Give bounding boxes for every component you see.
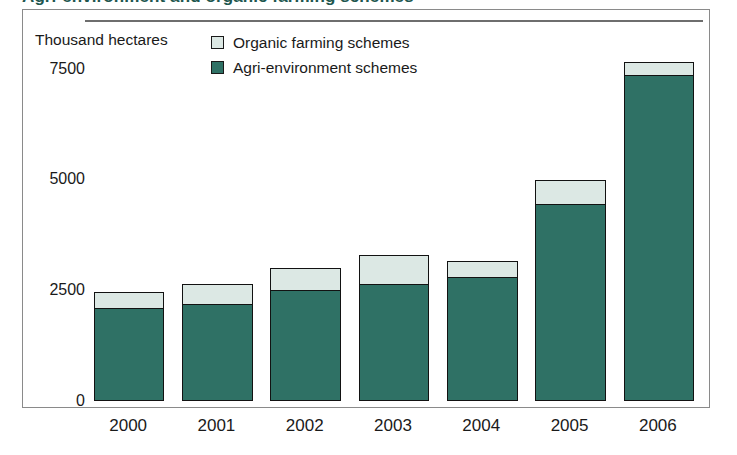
chart-title-strip: Agri-environment and organic farming sch… [0, 0, 737, 9]
bar-group[interactable] [359, 255, 430, 401]
bar-segment-agri-environment[interactable] [447, 277, 518, 401]
bar-segment-organic-farming[interactable] [447, 261, 518, 277]
bar-segment-organic-farming[interactable] [624, 62, 695, 75]
page-title: Agri-environment and organic farming sch… [22, 0, 414, 7]
x-tick-label: 2004 [462, 416, 500, 436]
chart-panel: Thousand hectares 0250050007500 Organic … [22, 9, 710, 408]
x-axis-labels: 2000200120022003200420052006 [22, 416, 710, 446]
bar-segment-organic-farming[interactable] [359, 255, 430, 284]
bar-group[interactable] [94, 292, 165, 401]
x-tick-label: 2000 [109, 416, 147, 436]
bar-segment-agri-environment[interactable] [359, 284, 430, 401]
bar-segment-agri-environment[interactable] [535, 204, 606, 401]
bar-group[interactable] [270, 268, 341, 401]
x-tick-label: 2006 [639, 416, 677, 436]
plot-area [85, 20, 703, 401]
y-tick-label: 0 [27, 392, 85, 410]
y-tick-label: 5000 [27, 170, 85, 188]
bar-group[interactable] [624, 62, 695, 401]
x-tick-label: 2002 [286, 416, 324, 436]
bar-segment-organic-farming[interactable] [94, 292, 165, 308]
bars-layer [85, 20, 703, 401]
bar-segment-organic-farming[interactable] [182, 284, 253, 304]
bar-group[interactable] [447, 261, 518, 401]
bar-segment-agri-environment[interactable] [624, 75, 695, 401]
x-tick-label: 2005 [551, 416, 589, 436]
x-tick-label: 2001 [198, 416, 236, 436]
y-axis-ticks: 0250050007500 [23, 10, 85, 407]
bar-group[interactable] [535, 180, 606, 402]
bar-segment-agri-environment[interactable] [94, 308, 165, 401]
bar-segment-agri-environment[interactable] [182, 304, 253, 401]
bar-segment-organic-farming[interactable] [270, 268, 341, 290]
y-tick-label: 7500 [27, 60, 85, 78]
y-tick-label: 2500 [27, 281, 85, 299]
x-axis-baseline [85, 20, 703, 22]
bar-segment-agri-environment[interactable] [270, 290, 341, 401]
bar-segment-organic-farming[interactable] [535, 180, 606, 204]
bar-group[interactable] [182, 284, 253, 401]
x-tick-label: 2003 [374, 416, 412, 436]
